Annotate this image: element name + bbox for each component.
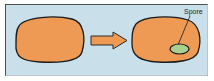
- spore: [170, 44, 189, 54]
- cell-with-spore: [132, 17, 200, 62]
- vegetative-cell: [16, 17, 84, 62]
- spore-label: Spore: [184, 8, 203, 16]
- spore-formation-diagram: Spore: [0, 0, 214, 81]
